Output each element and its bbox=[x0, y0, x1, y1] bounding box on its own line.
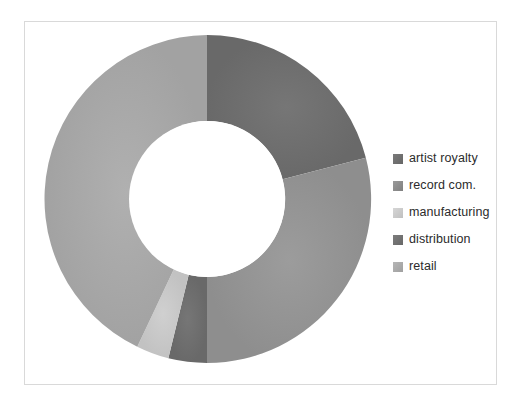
chart-legend: artist royalty record com. manufacturing… bbox=[393, 145, 498, 280]
legend-swatch-artist-royalty bbox=[393, 154, 403, 164]
legend-item-manufacturing[interactable]: manufacturing bbox=[393, 199, 498, 226]
donut-hole bbox=[129, 121, 285, 277]
screenshot-root: artist royalty record com. manufacturing… bbox=[0, 0, 521, 407]
legend-label-record-com: record com. bbox=[409, 179, 476, 192]
legend-item-distribution[interactable]: distribution bbox=[393, 226, 498, 253]
plot-area: artist royalty record com. manufacturing… bbox=[25, 22, 498, 386]
legend-label-artist-royalty: artist royalty bbox=[409, 152, 478, 165]
legend-swatch-distribution bbox=[393, 235, 403, 245]
legend-item-retail[interactable]: retail bbox=[393, 253, 498, 280]
legend-swatch-record-com bbox=[393, 181, 403, 191]
legend-item-record-com[interactable]: record com. bbox=[393, 172, 498, 199]
chart-frame: artist royalty record com. manufacturing… bbox=[24, 21, 497, 385]
legend-label-distribution: distribution bbox=[409, 233, 471, 246]
legend-label-manufacturing: manufacturing bbox=[409, 206, 490, 219]
legend-swatch-retail bbox=[393, 262, 403, 272]
donut-chart bbox=[31, 23, 383, 379]
legend-swatch-manufacturing bbox=[393, 208, 403, 218]
legend-item-artist-royalty[interactable]: artist royalty bbox=[393, 145, 498, 172]
legend-label-retail: retail bbox=[409, 260, 437, 273]
